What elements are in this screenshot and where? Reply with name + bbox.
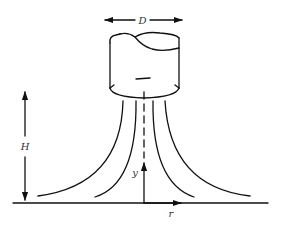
r-axis-label: r <box>169 208 175 219</box>
streamline-right-outer <box>165 101 250 196</box>
height-label: H <box>20 141 30 152</box>
streamline-left-outer <box>38 101 123 196</box>
diameter-dimension: D <box>105 15 182 26</box>
streamline-right-inner <box>153 101 194 197</box>
diameter-label: D <box>137 15 146 26</box>
jet-impingement-diagram: D H y r <box>0 0 282 225</box>
streamline-left-inner <box>95 101 136 197</box>
y-axis-label: y <box>131 167 138 178</box>
coordinate-axes: y r <box>131 163 181 219</box>
nozzle <box>110 33 179 99</box>
height-dimension: H <box>20 92 30 200</box>
